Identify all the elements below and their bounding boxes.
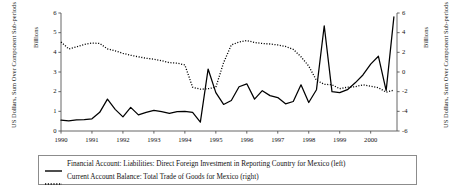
x-tick-label: 1995 (209, 137, 222, 144)
solid-line-swatch (45, 161, 62, 169)
x-tick-label: 1998 (302, 137, 315, 144)
series-line-current-account (61, 41, 394, 93)
right-y-tick-label: -2 (402, 88, 408, 95)
series-lines (61, 17, 394, 122)
x-tick-label: 1993 (147, 137, 160, 144)
x-tick-label: 1991 (85, 137, 98, 144)
right-y-tick-label: -4 (402, 108, 408, 115)
x-tick-label: 1990 (54, 137, 67, 144)
left-y-tick-label: 4 (53, 49, 56, 56)
chart-legend: Financial Account: Liabilities: Direct F… (38, 155, 417, 185)
legend-label-current-account: Current Account Balance: Total Trade of … (67, 174, 259, 181)
right-y-tick-label: 2 (402, 49, 405, 56)
left-y-tick-label: 0 (53, 128, 56, 135)
legend-entry-current-account: Current Account Balance: Total Trade of … (45, 171, 259, 184)
x-tick-label: 1997 (271, 137, 284, 144)
x-tick-label: 1999 (333, 137, 346, 144)
legend-label-financial-account: Financial Account: Liabilities: Direct F… (67, 161, 345, 168)
series-line-financial-account (61, 17, 394, 122)
right-y-tick-label: 4 (402, 29, 405, 36)
axis-lines (58, 13, 399, 134)
chart-figure: US Dollars, Sum Over Component Sub-perio… (0, 0, 454, 191)
left-y-tick-label: 5 (53, 29, 56, 36)
x-tick-label: 1992 (116, 137, 129, 144)
right-y-tick-label: 6 (402, 10, 405, 17)
left-y-tick-label: 3 (53, 69, 56, 76)
right-y-tick-label: 0 (402, 69, 405, 76)
x-tick-label: 1994 (178, 137, 191, 144)
legend-entry-financial-account: Financial Account: Liabilities: Direct F… (45, 158, 345, 171)
left-y-tick-label: 1 (53, 108, 56, 115)
x-tick-label: 2000 (364, 137, 377, 144)
dotted-line-swatch (45, 174, 62, 182)
x-tick-label: 1996 (240, 137, 253, 144)
left-y-tick-label: 6 (53, 10, 56, 17)
right-y-tick-label: -6 (402, 128, 408, 135)
left-y-tick-label: 2 (53, 88, 56, 95)
